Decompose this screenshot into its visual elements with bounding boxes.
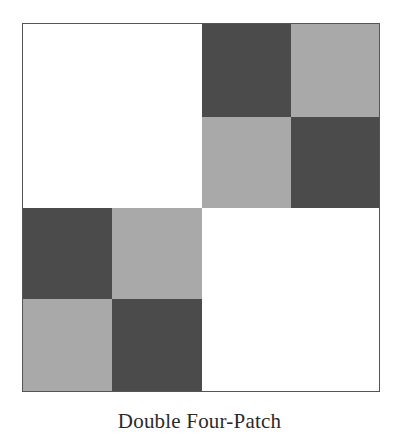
patch-light-tr-3	[202, 117, 291, 208]
patch-dark-bl-4	[112, 299, 202, 391]
quilt-block	[22, 23, 380, 392]
patch-light-bl-3	[23, 299, 112, 391]
patch-light-tr-2	[291, 24, 379, 117]
patch-dark-bl-1	[23, 208, 112, 299]
patch-dark-tr-1	[202, 24, 291, 117]
patch-dark-tr-4	[291, 117, 379, 208]
plain-square-top-left	[23, 24, 202, 208]
plain-square-bottom-right	[202, 208, 379, 391]
figure-caption: Double Four-Patch	[0, 409, 399, 434]
patch-light-bl-2	[112, 208, 202, 299]
